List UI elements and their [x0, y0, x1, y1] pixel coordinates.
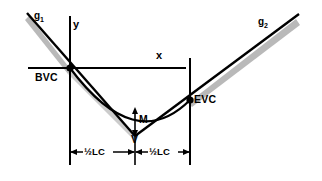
- grade-shadows: [25, 16, 300, 139]
- y-axis-label: y: [73, 19, 79, 30]
- dimension-right-arrow-end: [183, 149, 190, 155]
- x-axis-label: x: [156, 50, 162, 61]
- middle-ordinate-arrow-up: [132, 107, 138, 114]
- dimension-left-arrow-end: [128, 149, 135, 155]
- dimension-right-arrow-start: [135, 149, 142, 155]
- dimension-left-arrow-start: [70, 149, 77, 155]
- grade-label-g1-subscript: 1: [40, 16, 44, 23]
- evc-node: [186, 96, 193, 103]
- bvc-node: [66, 64, 73, 71]
- grade-g1-shadow: [25, 16, 72, 74]
- grade-label-g2: g2: [258, 17, 268, 29]
- pvi-label: V: [131, 134, 138, 145]
- dimension-label-left: ½LC: [84, 147, 105, 157]
- parabolic-sag-curve: [70, 68, 190, 121]
- dimension-label-right: ½LC: [149, 147, 170, 157]
- diagram-canvas: g1 g2 y x BVC EVC M V ½LC ½LC: [0, 0, 322, 181]
- grade-label-g2-subscript: 2: [264, 22, 268, 29]
- grade-line-g2: [135, 14, 299, 136]
- pvi-left-leg-shadow: [68, 71, 137, 139]
- evc-label: EVC: [194, 94, 216, 105]
- bvc-label: BVC: [35, 72, 58, 83]
- grade-label-g1: g1: [34, 11, 44, 23]
- middle-ordinate-label: M: [139, 114, 148, 125]
